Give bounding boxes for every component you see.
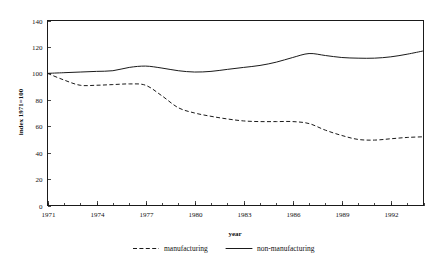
y-axis-tick-labels: 020406080100120140 [32, 18, 43, 211]
legend-label-non-manufacturing: non-manufacturing [257, 244, 315, 253]
x-tick-label: 1992 [385, 211, 400, 219]
series-line-manufacturing [48, 73, 424, 140]
x-tick-label: 1983 [238, 211, 253, 219]
x-axis-title: year [228, 230, 241, 238]
axis-frame [48, 21, 424, 206]
series-line-non-manufacturing [48, 51, 424, 73]
x-tick-label: 1989 [336, 211, 351, 219]
y-tick-label: 140 [32, 18, 43, 26]
y-tick-label: 100 [32, 70, 43, 78]
legend-label-manufacturing: manufacturing [164, 244, 208, 253]
line-chart: 020406080100120140 197119741977198019831… [0, 0, 438, 262]
x-tick-label: 1980 [189, 211, 204, 219]
y-tick-label: 120 [32, 44, 43, 52]
y-axis-title: index 1971=100 [17, 88, 25, 135]
x-tick-label: 1971 [42, 211, 57, 219]
x-tick-label: 1977 [140, 211, 155, 219]
chart-legend: manufacturing non-manufacturing [133, 244, 315, 253]
x-axis-tick-labels: 19711974197719801983198619891992 [42, 211, 400, 219]
y-tick-label: 20 [36, 176, 44, 184]
series-layer [48, 51, 424, 140]
y-tick-label: 80 [36, 97, 44, 105]
y-tick-label: 60 [36, 123, 44, 131]
x-tick-label: 1986 [287, 211, 302, 219]
y-tick-label: 40 [36, 150, 44, 158]
plot-border [48, 21, 424, 206]
chart-figure: 020406080100120140 197119741977198019831… [0, 0, 438, 262]
x-tick-label: 1974 [91, 211, 106, 219]
x-axis-major-ticks [49, 201, 392, 206]
